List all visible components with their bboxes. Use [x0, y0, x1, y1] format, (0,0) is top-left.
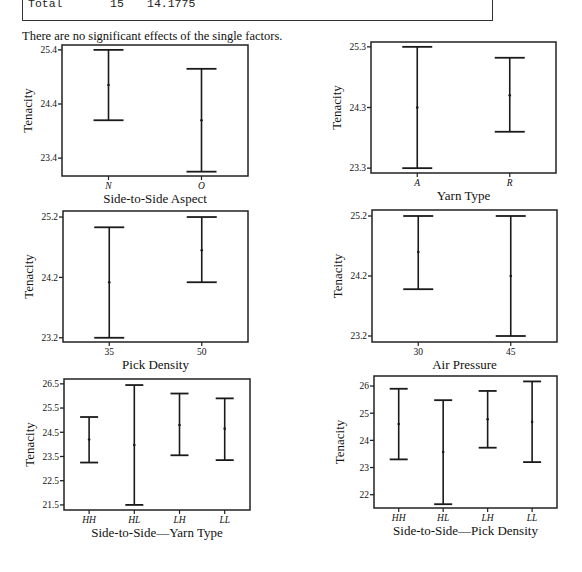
y-tick-label: 25 [360, 409, 370, 419]
x-category-label: LH [481, 513, 495, 523]
x-category-label: LL [526, 513, 538, 523]
y-tick-label: 26 [360, 381, 370, 391]
y-tick-label: 22 [360, 490, 370, 500]
x-axis-title: Side-to-Side—Pick Density [393, 523, 538, 538]
error-bar [390, 389, 408, 460]
mean-marker [442, 451, 445, 454]
plot-frame [374, 376, 557, 508]
error-bar [523, 381, 541, 462]
mean-marker [397, 423, 400, 426]
error-bar [434, 400, 452, 504]
y-tick-label: 23 [360, 463, 370, 473]
y-axis-title: Tenacity [332, 419, 347, 464]
error-bar [479, 391, 497, 448]
mean-marker [531, 421, 534, 424]
mean-marker [486, 418, 489, 421]
chart-side-to-side-pick-density: 2223242526TenacityHHHLLHLLSide-to-Side—P… [0, 0, 582, 572]
x-category-label: HL [436, 513, 449, 523]
y-tick-label: 24 [360, 436, 370, 446]
x-category-label: HH [391, 513, 407, 523]
